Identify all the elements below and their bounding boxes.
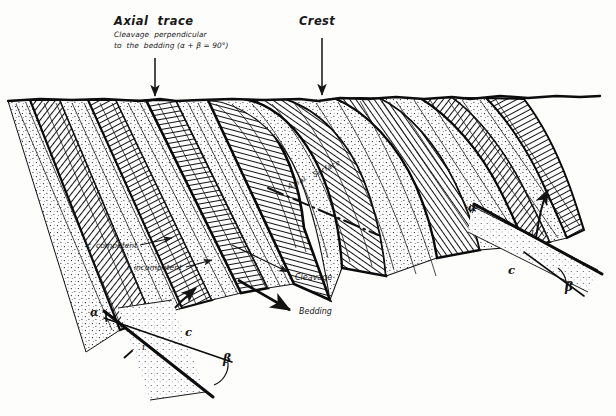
cross-section-drawing bbox=[0, 0, 616, 416]
inset-left-beta-label: β bbox=[223, 352, 231, 366]
inset-right-beta-label: β bbox=[565, 280, 573, 294]
inset-right-alpha-label: α bbox=[468, 201, 476, 214]
crest-label: Crest bbox=[299, 14, 335, 28]
figure-canvas: Axial trace Cleavage perpendicular to th… bbox=[0, 0, 616, 416]
bedding-label: Bedding bbox=[299, 307, 332, 316]
incompetent-legend-label: i incompetent bbox=[127, 263, 182, 272]
axial-trace-subtitle-1: Cleavage perpendicular bbox=[114, 30, 207, 39]
axial-trace-title: Axial trace bbox=[114, 14, 194, 28]
inset-left-detail bbox=[104, 300, 232, 400]
inset-right-competent-key: c bbox=[508, 263, 515, 277]
cleavage-label: Cleavage bbox=[295, 273, 332, 282]
competent-legend-label: c competent bbox=[87, 241, 137, 250]
inset-left-incompetent-key: i bbox=[142, 341, 145, 352]
inset-left-alpha-label: α bbox=[90, 306, 98, 319]
inset-left-competent-key: c bbox=[185, 325, 192, 339]
inset-right-incompetent-key: i bbox=[531, 226, 534, 237]
axial-trace-subtitle-2: to the bedding (α + β = 90°) bbox=[114, 41, 229, 50]
